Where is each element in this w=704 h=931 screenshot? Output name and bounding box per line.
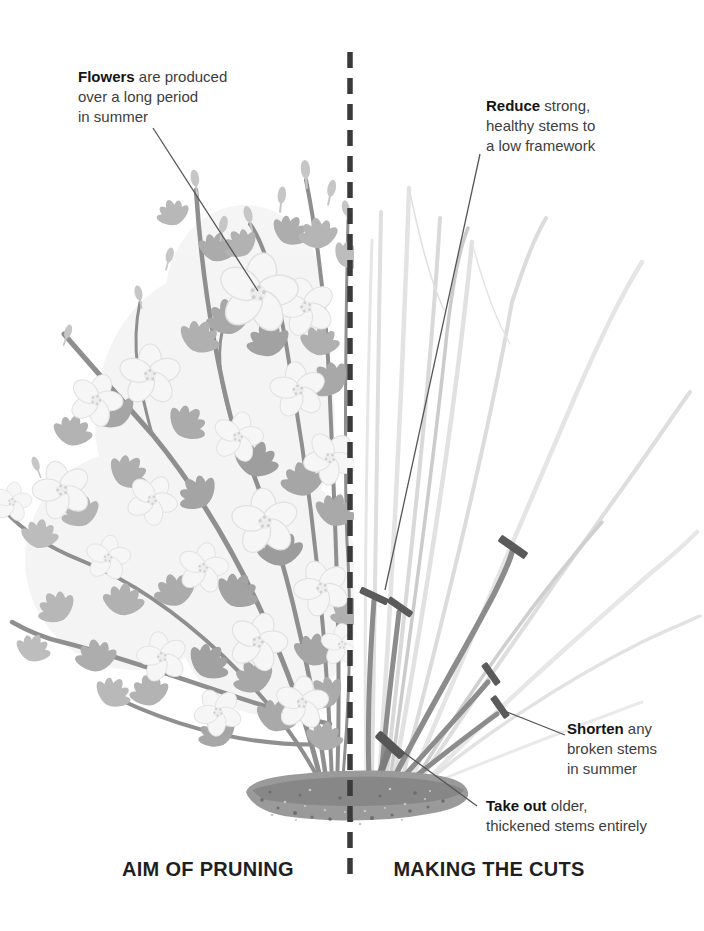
pruning-illustration bbox=[0, 0, 704, 931]
annotation-shorten: Shorten any broken stems in summer bbox=[567, 719, 657, 779]
left-plant-illustration bbox=[0, 160, 374, 788]
annotation-lead: Reduce bbox=[486, 97, 540, 114]
ghost-stems bbox=[365, 188, 700, 790]
section-label-aim-of-pruning: AIM OF PRUNING bbox=[88, 858, 328, 881]
section-label-making-the-cuts: MAKING THE CUTS bbox=[369, 858, 609, 881]
annotation-take-out: Take out older, thickened stems entirely bbox=[486, 796, 647, 836]
leader-line-shorten bbox=[507, 712, 565, 735]
annotation-lead: Flowers bbox=[78, 68, 135, 85]
soil-mound bbox=[246, 771, 468, 826]
pruning-diagram-page: Flowers are produced over a long period … bbox=[0, 0, 704, 931]
annotation-reduce: Reduce strong, healthy stems to a low fr… bbox=[486, 96, 595, 156]
annotation-lead: Shorten bbox=[567, 720, 624, 737]
annotation-lead: Take out bbox=[486, 797, 547, 814]
annotation-flowers: Flowers are produced over a long period … bbox=[78, 67, 227, 127]
right-plant-illustration bbox=[365, 188, 700, 790]
